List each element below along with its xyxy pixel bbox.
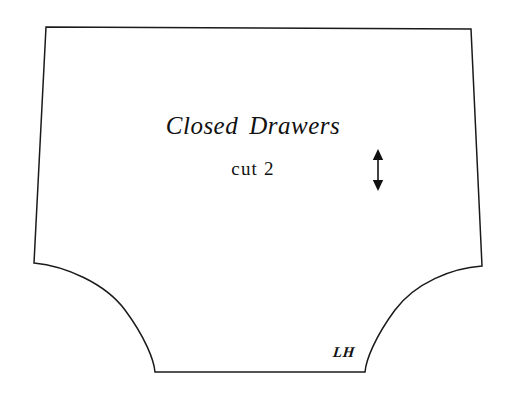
pattern-outline-path: [34, 27, 482, 372]
pattern-piece-drawing: [0, 0, 506, 400]
pattern-sheet: ClosedDrawers cut 2 LH: [0, 0, 506, 400]
